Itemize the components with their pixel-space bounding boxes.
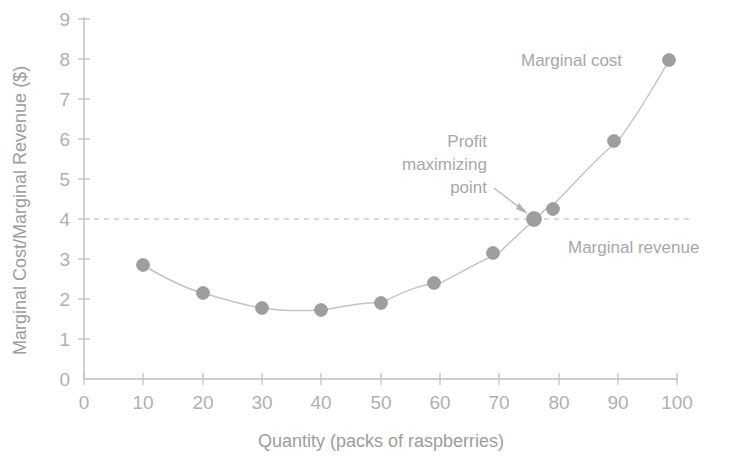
x-tick-label-20: 20 — [192, 392, 213, 413]
profit-maximizing-point-annotation: Profit maximizing point — [402, 132, 528, 214]
data-point-50-1.9 — [375, 297, 388, 310]
marginal-revenue-label: Marginal revenue — [568, 238, 699, 257]
profit-annotation-line-1: Profit — [447, 132, 487, 151]
marginal-cost-revenue-chart: Marginal Cost/Marginal Revenue ($) 9 8 7… — [0, 0, 735, 456]
x-tick-label-30: 30 — [251, 392, 272, 413]
y-tick-label-7: 7 — [59, 89, 70, 110]
x-tick-label-10: 10 — [132, 392, 153, 413]
y-axis-tick-labels: 9 8 7 6 5 4 3 2 1 0 — [59, 9, 70, 390]
y-tick-label-1: 1 — [59, 329, 70, 350]
y-tick-label-4: 4 — [59, 209, 70, 230]
x-tick-label-100: 100 — [661, 392, 693, 413]
data-point-69-3.15 — [487, 247, 500, 260]
data-point-59-2.4 — [428, 277, 441, 290]
marginal-cost-label: Marginal cost — [521, 51, 622, 70]
y-tick-label-0: 0 — [59, 369, 70, 390]
data-point-40-1.72 — [315, 304, 328, 317]
x-axis-title: Quantity (packs of raspberries) — [258, 431, 504, 451]
data-point-79-4.25 — [547, 203, 560, 216]
data-point-20-2.15 — [197, 287, 210, 300]
y-tick-label-8: 8 — [59, 49, 70, 70]
profit-annotation-line-2: maximizing — [402, 155, 487, 174]
profit-annotation-line-3: point — [450, 178, 487, 197]
x-tick-label-40: 40 — [310, 392, 331, 413]
x-tick-label-60: 60 — [429, 392, 450, 413]
y-tick-label-3: 3 — [59, 249, 70, 270]
x-tick-label-70: 70 — [488, 392, 509, 413]
marginal-cost-curve — [143, 60, 669, 311]
data-point-99-8.0 — [663, 54, 676, 67]
profit-annotation-arrow-head — [516, 203, 528, 214]
x-tick-label-0: 0 — [79, 392, 90, 413]
y-tick-label-2: 2 — [59, 289, 70, 310]
chart-container: Marginal Cost/Marginal Revenue ($) 9 8 7… — [0, 0, 735, 456]
data-point-89-5.95 — [608, 135, 621, 148]
x-axis-tick-labels: 0 10 20 30 40 50 60 70 80 90 100 — [79, 392, 693, 413]
data-point-76-4.0 — [527, 212, 542, 227]
y-tick-label-5: 5 — [59, 169, 70, 190]
x-tick-label-50: 50 — [370, 392, 391, 413]
data-point-markers — [137, 54, 676, 317]
y-tick-label-6: 6 — [59, 129, 70, 150]
data-point-10-2.85 — [137, 259, 150, 272]
y-tick-label-9: 9 — [59, 9, 70, 30]
x-tick-label-80: 80 — [548, 392, 569, 413]
data-point-30-1.8 — [256, 302, 269, 315]
x-tick-label-90: 90 — [607, 392, 628, 413]
y-axis-title: Marginal Cost/Marginal Revenue ($) — [10, 66, 30, 355]
